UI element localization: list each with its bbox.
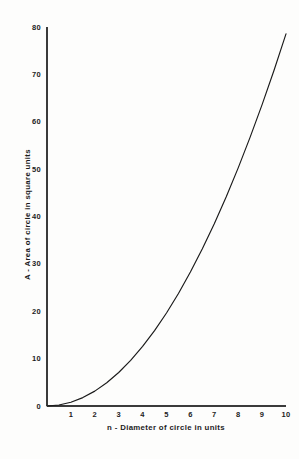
plot-area [0, 0, 299, 459]
x-tick-label: 9 [255, 410, 269, 419]
axis-lines [47, 27, 286, 406]
x-tick-label: 10 [279, 410, 293, 419]
x-tick-label: 1 [64, 410, 78, 419]
x-tick-label: 5 [160, 410, 174, 419]
x-tick-label: 7 [207, 410, 221, 419]
x-tick-label: 8 [231, 410, 245, 419]
y-tick-label: 10 [19, 354, 41, 363]
x-tick-label: 6 [183, 410, 197, 419]
x-axis-title: n - Diameter of circle in units [47, 423, 285, 432]
area-curve [47, 34, 286, 406]
y-tick-label: 70 [19, 70, 41, 79]
data-series-group [47, 34, 286, 406]
x-tick-label: 2 [88, 410, 102, 419]
y-tick-label: 0 [19, 402, 41, 411]
chart-figure: 01020304050607080 12345678910 A - Area o… [0, 0, 299, 459]
x-tick-label: 4 [136, 410, 150, 419]
x-tick-label: 3 [112, 410, 126, 419]
y-axis-title: A - Area of circle in square units [23, 115, 32, 315]
y-tick-label: 80 [19, 23, 41, 32]
